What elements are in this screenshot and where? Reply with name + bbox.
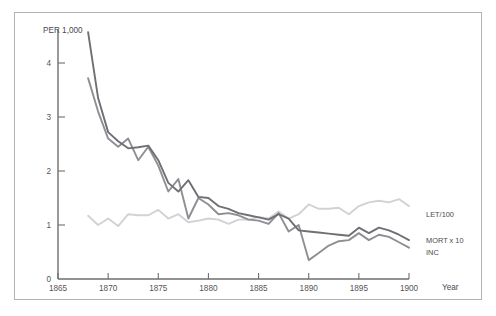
- x-tick-label: 1865: [49, 284, 68, 293]
- x-axis-title: Year: [442, 283, 459, 292]
- series-legend-labels: LET/100MORT x 10INC: [426, 210, 464, 257]
- x-tick-label: 1885: [249, 284, 268, 293]
- x-tick-label: 1875: [149, 284, 168, 293]
- series-line-mort-x-10: [88, 32, 409, 240]
- series-group: [88, 32, 409, 260]
- y-axis-ticks: 01234: [46, 59, 65, 284]
- chart-frame: 01234 18651870187518801885189018951900 P…: [14, 12, 482, 300]
- x-tick-label: 1890: [300, 284, 319, 293]
- y-tick-label: 0: [46, 275, 51, 284]
- x-tick-label: 1900: [400, 284, 419, 293]
- x-axis-ticks: 18651870187518801885189018951900: [49, 273, 419, 293]
- y-tick-label: 4: [46, 59, 51, 68]
- series-line-inc: [88, 78, 409, 260]
- x-tick-label: 1895: [350, 284, 369, 293]
- series-line-let-100: [88, 199, 409, 226]
- series-label-inc: INC: [426, 248, 439, 257]
- y-tick-label: 2: [46, 167, 51, 176]
- x-tick-label: 1870: [99, 284, 118, 293]
- y-tick-label: 3: [46, 113, 51, 122]
- series-label-let-100: LET/100: [426, 210, 454, 219]
- y-tick-label: 1: [46, 221, 51, 230]
- series-label-mort-x-10: MORT x 10: [426, 236, 464, 245]
- line-chart: 01234 18651870187518801885189018951900 P…: [15, 13, 483, 301]
- x-tick-label: 1880: [199, 284, 218, 293]
- y-axis-title: PER 1,000: [43, 26, 83, 35]
